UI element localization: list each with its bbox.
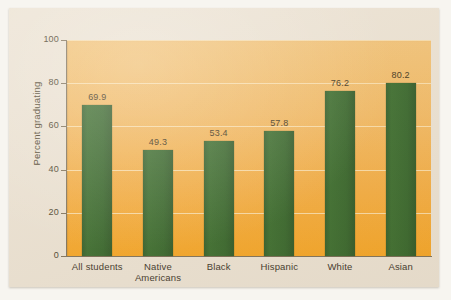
bar-value-label: 76.2	[315, 78, 365, 88]
gridline	[67, 40, 431, 41]
bar-value-label: 69.9	[72, 92, 122, 102]
gridline	[67, 83, 431, 84]
gridline	[67, 126, 431, 127]
y-axis-tick-label: 100	[33, 34, 59, 44]
y-axis-tick-label: 80	[33, 77, 59, 87]
bar-value-label: 80.2	[376, 70, 426, 80]
bar	[386, 83, 416, 256]
x-axis-line	[66, 256, 432, 257]
gridline	[67, 213, 431, 214]
figure-card: Percent graduating 020406080100 69.949.3…	[9, 8, 439, 287]
bar	[143, 150, 173, 256]
y-axis-tick-label: 20	[33, 207, 59, 217]
y-axis-tick-label: 60	[33, 120, 59, 130]
scan-page-background: Percent graduating 020406080100 69.949.3…	[0, 0, 451, 300]
bar-value-label: 53.4	[194, 128, 244, 138]
bar	[264, 131, 294, 256]
gridline	[67, 170, 431, 171]
bar	[204, 141, 234, 256]
bar	[325, 91, 355, 256]
y-axis-tick-label: 0	[33, 250, 59, 260]
x-axis-category-label: Asian	[361, 261, 441, 272]
bar	[82, 105, 112, 256]
x-axis-category-label-line: Americans	[118, 272, 198, 283]
bar-value-label: 57.8	[254, 118, 304, 128]
y-axis-tick-label: 40	[33, 164, 59, 174]
x-axis-category-label-line: Asian	[361, 261, 441, 272]
bar-value-label: 49.3	[133, 137, 183, 147]
